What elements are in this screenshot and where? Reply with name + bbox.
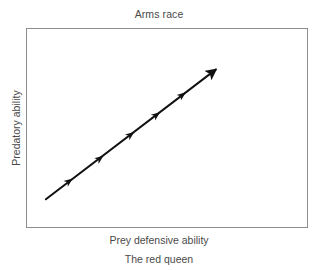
- chart-title: Arms race: [0, 8, 318, 21]
- arrow-line-plot: [27, 29, 307, 227]
- plot-area: [26, 28, 308, 228]
- x-axis-label: Prey defensive ability: [0, 234, 318, 247]
- y-axis-label: Predatory ability: [9, 28, 23, 228]
- figure-caption: The red queen: [0, 253, 318, 266]
- figure-container: Arms race Predatory ability Prey defensi…: [0, 0, 318, 270]
